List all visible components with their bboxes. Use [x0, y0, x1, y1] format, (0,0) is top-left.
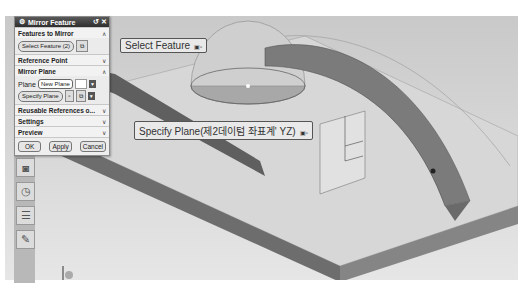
section-reference-point[interactable]: Reference Point ∨	[15, 54, 109, 65]
gear-icon[interactable]: ⚙	[19, 18, 25, 26]
chevron-down-icon: ∨	[102, 118, 106, 125]
reuse-library-icon[interactable]: ☰	[16, 206, 35, 225]
part-navigator-icon[interactable]: ◙	[16, 158, 35, 177]
dropdown-arrow-icon[interactable]: ▼	[89, 80, 96, 88]
select-feature-button[interactable]: Select Feature (2)	[18, 41, 74, 52]
section-features-to-mirror[interactable]: Features to Mirror ∧	[15, 27, 109, 38]
plane-dialog-icon[interactable]: ▫	[65, 90, 74, 102]
section-label: Features to Mirror	[18, 30, 74, 37]
plane-select[interactable]: New Plane	[38, 79, 73, 89]
chevron-up-icon: ∧	[102, 30, 106, 37]
specify-plane-button[interactable]: Specify Plane	[18, 91, 63, 102]
chevron-down-icon: ∨	[102, 57, 106, 64]
resource-bar: ◙ ◷ ☰ ✎	[14, 150, 35, 283]
section-label: Mirror Plane	[18, 68, 56, 75]
ok-button[interactable]: OK	[18, 141, 41, 152]
history-icon[interactable]: ◷	[16, 182, 35, 201]
select-feature-text: Select Feature	[125, 40, 190, 51]
drawing-icon[interactable]: ✎	[16, 230, 35, 249]
mouse-button-icon: ▣▫	[300, 130, 308, 136]
specify-plane-hint: Specify Plane(제2데이텀 좌표계' YZ)▣▫	[134, 121, 313, 140]
feature-list-icon[interactable]: ⧉	[76, 40, 88, 52]
plane-swatch	[75, 79, 87, 89]
dialog-titlebar[interactable]: ⚙ Mirror Feature ↺ ✕	[15, 17, 109, 27]
section-label: Settings	[18, 118, 44, 125]
dialog-actions: OK Apply Cancel	[15, 137, 109, 155]
section-label: Reusable References o...	[18, 107, 95, 114]
section-reusable-references[interactable]: Reusable References o... ∨	[15, 104, 109, 115]
reset-icon[interactable]: ↺	[93, 18, 99, 26]
section-label: Reference Point	[18, 57, 68, 64]
features-to-mirror-body: Select Feature (2) ⧉	[15, 38, 109, 54]
mouse-button-icon: ▣▫	[194, 44, 202, 50]
mirror-plane-body: Plane New Plane ▼ Specify Plane ▫ ⧉ ▼	[15, 76, 109, 104]
chevron-down-icon: ∨	[102, 129, 106, 136]
chevron-up-icon: ∧	[102, 68, 106, 75]
section-label: Preview	[18, 129, 43, 136]
dialog-title: Mirror Feature	[28, 19, 91, 26]
dropdown-arrow-icon[interactable]: ▼	[88, 92, 95, 100]
section-settings[interactable]: Settings ∨	[15, 115, 109, 126]
mirror-feature-dialog: ⚙ Mirror Feature ↺ ✕ Features to Mirror …	[14, 16, 110, 156]
section-mirror-plane[interactable]: Mirror Plane ∧	[15, 65, 109, 76]
chevron-down-icon: ∨	[102, 107, 106, 114]
cancel-button[interactable]: Cancel	[80, 141, 106, 152]
specify-plane-text: Specify Plane(제2데이텀 좌표계' YZ)	[139, 126, 296, 137]
plane-label: Plane	[18, 81, 36, 88]
plane-list-icon[interactable]: ⧉	[76, 90, 86, 102]
section-preview[interactable]: Preview ∨	[15, 126, 109, 137]
select-feature-hint: Select Feature▣▫	[120, 38, 207, 53]
close-icon[interactable]: ✕	[101, 18, 107, 26]
apply-button[interactable]: Apply	[49, 141, 71, 152]
